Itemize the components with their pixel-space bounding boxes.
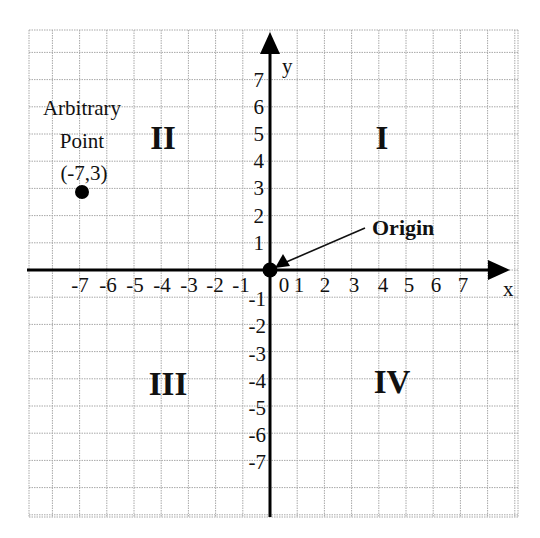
x-axis-label: x (503, 277, 514, 301)
x-tick-label: -5 (126, 273, 144, 297)
arbitrary-point-marker (75, 185, 89, 199)
x-tick-label: 6 (431, 273, 442, 297)
x-tick-label: 3 (349, 273, 360, 297)
x-tick-label: -4 (153, 273, 171, 297)
coordinate-plane-svg: -7-6-5-4-3-2-101234567 7654321-1-2-3-4-5… (0, 0, 540, 538)
quadrant-3-label: III (149, 366, 188, 402)
arbitrary-label-line2: Point (60, 129, 105, 153)
y-tick-label: 7 (254, 68, 265, 92)
arbitrary-point-coords: (-7,3) (60, 161, 107, 185)
y-tick-label: -7 (249, 450, 267, 474)
x-tick-label: -2 (206, 273, 224, 297)
quadrant-1-label: I (376, 120, 389, 156)
y-tick-label: 3 (254, 176, 265, 200)
quadrant-2-label: II (150, 120, 176, 156)
x-tick-label: 4 (378, 273, 389, 297)
arbitrary-label-line1: Arbitrary (43, 96, 122, 120)
quadrant-4-label: IV (374, 364, 411, 400)
y-tick-label: -6 (249, 423, 267, 447)
x-tick-label: -3 (180, 273, 198, 297)
x-tick-label: -7 (71, 273, 89, 297)
origin-label: Origin (372, 215, 434, 240)
y-tick-label: -5 (249, 396, 267, 420)
y-tick-label: 4 (254, 149, 265, 173)
y-tick-label: -1 (249, 287, 267, 311)
y-tick-label: -3 (249, 342, 267, 366)
y-axis-arrow-icon (260, 32, 280, 54)
y-tick-label: -4 (249, 369, 267, 393)
x-tick-label: 7 (458, 273, 469, 297)
x-tick-label: -6 (99, 273, 117, 297)
x-tick-label: -1 (232, 273, 250, 297)
origin-annotation: Origin (263, 215, 435, 278)
y-tick-label: 5 (254, 122, 265, 146)
arbitrary-point-annotation: Arbitrary Point (-7,3) (43, 96, 122, 199)
y-axis-label: y (282, 54, 293, 78)
x-tick-label: 2 (320, 273, 331, 297)
x-tick-label: 1 (294, 273, 305, 297)
x-tick-label: 0 (279, 273, 290, 297)
x-tick-label: 5 (404, 273, 415, 297)
y-tick-label: 6 (254, 95, 265, 119)
y-tick-label: 2 (254, 204, 265, 228)
y-tick-label: -2 (249, 314, 267, 338)
origin-point-marker (263, 263, 278, 278)
coordinate-plane-diagram: -7-6-5-4-3-2-101234567 7654321-1-2-3-4-5… (0, 0, 540, 538)
y-tick-label: 1 (254, 231, 265, 255)
